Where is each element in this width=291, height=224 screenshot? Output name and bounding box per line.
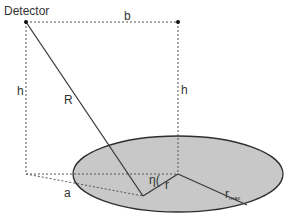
label-r: r <box>165 179 169 191</box>
detector-point <box>24 20 28 24</box>
label-h-left: h <box>17 85 24 97</box>
top-right-point <box>176 20 180 24</box>
label-rmax-sub: max <box>229 195 240 201</box>
geometry-diagram <box>0 0 291 224</box>
label-h-right: h <box>181 84 188 96</box>
label-a: a <box>64 187 71 199</box>
label-detector: Detector <box>4 5 49 17</box>
label-rmax: rmax <box>225 188 240 201</box>
label-eta: η( <box>149 174 160 186</box>
label-b: b <box>124 10 131 22</box>
label-R: R <box>64 94 73 106</box>
